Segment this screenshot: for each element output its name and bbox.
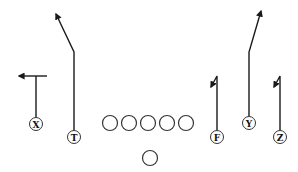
receiver-z: Z	[274, 131, 287, 144]
offensive-line	[103, 116, 194, 131]
routes	[19, 11, 280, 130]
quarterback	[143, 151, 158, 166]
receiver-t-label: T	[71, 133, 78, 143]
receiver-x-label: X	[33, 120, 40, 130]
lineman-5	[179, 116, 194, 131]
route-z	[274, 76, 280, 130]
play-diagram: X T F Y Z	[0, 0, 298, 172]
receiver-f-label: F	[214, 133, 221, 143]
receiver-t: T	[68, 131, 81, 144]
receiver-y-label: Y	[245, 119, 253, 129]
lineman-center	[141, 116, 156, 131]
receiver-x: X	[30, 118, 43, 131]
lineman-1	[103, 116, 118, 131]
route-t	[56, 14, 74, 130]
lineman-4	[160, 116, 175, 131]
lineman-2	[122, 116, 137, 131]
receiver-z-label: Z	[277, 133, 284, 143]
receiver-y: Y	[243, 117, 256, 130]
route-y	[249, 11, 261, 116]
route-f	[211, 76, 217, 130]
receiver-f: F	[211, 131, 224, 144]
